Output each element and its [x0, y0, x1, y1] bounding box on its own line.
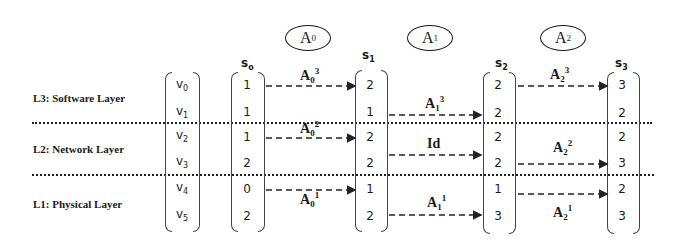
transition-label-a0-2: A02 [300, 119, 319, 138]
transition-label-a0-3: A03 [300, 66, 319, 85]
transition-label-a0-1: A01 [300, 190, 319, 209]
transition-label-a2-2: A22 [553, 138, 572, 157]
transition-arrows [0, 0, 688, 250]
transition-label-id: Id [427, 136, 440, 152]
transition-label-a2-1: A21 [553, 203, 572, 222]
transition-label-a2-3: A23 [550, 65, 569, 84]
transition-label-a1-1: A11 [427, 193, 446, 212]
transition-label-a1-3: A13 [425, 94, 444, 113]
